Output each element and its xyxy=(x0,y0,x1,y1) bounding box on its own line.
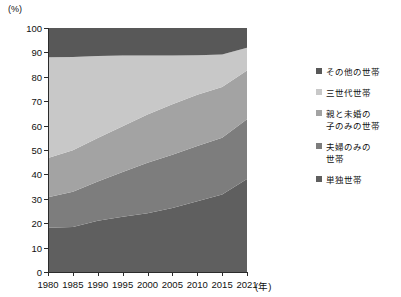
x-tick-mark-2015 xyxy=(222,272,223,276)
legend-item-4[interactable]: 単独世帯 xyxy=(316,174,401,186)
y-tick-label-100: 100 xyxy=(26,23,42,34)
x-tick-label-1990: 1990 xyxy=(87,279,108,290)
y-tick-label-0: 0 xyxy=(37,267,42,278)
legend-swatch-icon xyxy=(316,176,322,182)
legend-swatch-icon xyxy=(316,89,322,95)
y-tick-label-90: 90 xyxy=(31,47,42,58)
y-tick-label-60: 60 xyxy=(31,120,42,131)
x-tick-mark-2010 xyxy=(197,272,198,276)
x-tick-label-2005: 2005 xyxy=(162,279,183,290)
y-tick-mark-90 xyxy=(44,52,48,53)
legend-label: 夫婦のみの 世帯 xyxy=(326,141,371,165)
legend-swatch-icon xyxy=(316,68,322,74)
stacked-area-plot xyxy=(48,28,247,272)
x-tick-mark-1985 xyxy=(73,272,74,276)
legend-item-0[interactable]: その他の世帯 xyxy=(316,66,401,78)
y-tick-label-10: 10 xyxy=(31,242,42,253)
area-series-その他の世帯 xyxy=(48,28,247,57)
x-tick-label-1985: 1985 xyxy=(62,279,83,290)
y-tick-mark-40 xyxy=(44,174,48,175)
y-tick-label-50: 50 xyxy=(31,145,42,156)
x-tick-label-1995: 1995 xyxy=(112,279,133,290)
legend-item-3[interactable]: 夫婦のみの 世帯 xyxy=(316,141,401,165)
y-tick-mark-60 xyxy=(44,126,48,127)
x-tick-mark-1995 xyxy=(123,272,124,276)
legend-swatch-icon xyxy=(316,143,322,149)
x-axis-unit-label: (年) xyxy=(255,279,271,293)
chart-figure: (%) 0102030405060708090100 1980198519901… xyxy=(0,0,401,297)
x-tick-mark-1980 xyxy=(48,272,49,276)
legend-item-2[interactable]: 親と未婚の 子のみの世帯 xyxy=(316,108,401,132)
legend-label: 単独世帯 xyxy=(326,174,362,186)
x-tick-label-1980: 1980 xyxy=(37,279,58,290)
legend-label: 親と未婚の 子のみの世帯 xyxy=(326,108,380,132)
y-tick-label-70: 70 xyxy=(31,96,42,107)
y-tick-mark-20 xyxy=(44,223,48,224)
y-tick-label-40: 40 xyxy=(31,169,42,180)
x-tick-label-2015: 2015 xyxy=(212,279,233,290)
y-tick-mark-30 xyxy=(44,199,48,200)
x-tick-mark-2021 xyxy=(247,272,248,276)
y-tick-label-80: 80 xyxy=(31,71,42,82)
stacked-area-svg xyxy=(48,28,247,272)
y-axis-line xyxy=(48,28,49,272)
y-tick-mark-100 xyxy=(44,28,48,29)
x-tick-mark-2005 xyxy=(172,272,173,276)
y-tick-mark-80 xyxy=(44,77,48,78)
y-tick-mark-50 xyxy=(44,150,48,151)
x-tick-mark-2000 xyxy=(148,272,149,276)
y-tick-label-20: 20 xyxy=(31,218,42,229)
x-tick-mark-1990 xyxy=(98,272,99,276)
y-tick-mark-10 xyxy=(44,248,48,249)
x-tick-label-2010: 2010 xyxy=(187,279,208,290)
x-tick-label-2000: 2000 xyxy=(137,279,158,290)
legend-label: その他の世帯 xyxy=(326,66,380,78)
y-axis-tick-labels: 0102030405060708090100 xyxy=(0,0,48,297)
y-tick-mark-70 xyxy=(44,101,48,102)
legend-label: 三世代世帯 xyxy=(326,87,371,99)
y-tick-label-30: 30 xyxy=(31,193,42,204)
legend: その他の世帯三世代世帯親と未婚の 子のみの世帯夫婦のみの 世帯単独世帯 xyxy=(316,66,401,195)
legend-swatch-icon xyxy=(316,110,322,116)
legend-item-1[interactable]: 三世代世帯 xyxy=(316,87,401,99)
